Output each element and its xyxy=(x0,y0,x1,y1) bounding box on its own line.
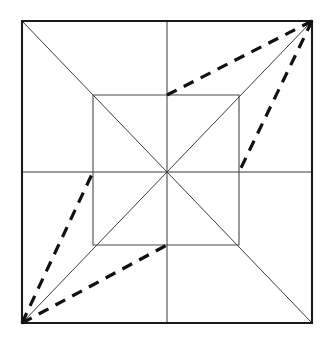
solid-line-group xyxy=(22,21,312,323)
figure-container xyxy=(0,0,330,348)
geometry-diagram xyxy=(0,0,330,348)
